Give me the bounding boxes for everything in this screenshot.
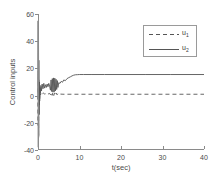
x-tick xyxy=(204,146,205,149)
y-tick xyxy=(35,150,38,151)
y-tick xyxy=(35,96,38,97)
y-tick-label: -40 xyxy=(24,147,34,154)
y-tick-label: 20 xyxy=(26,65,34,72)
legend: u1 u2 xyxy=(143,25,197,57)
legend-label-u2-sub: 2 xyxy=(186,47,189,53)
legend-entry-u1: u1 xyxy=(144,26,196,42)
x-tick-label: 10 xyxy=(76,154,84,161)
y-axis-label-wrapper: Control inputs xyxy=(11,14,12,150)
y-tick-label: -20 xyxy=(24,119,34,126)
x-tick-label: 30 xyxy=(159,154,167,161)
x-tick-label: 20 xyxy=(117,154,125,161)
y-axis-label: Control inputs xyxy=(9,59,17,105)
y-tick-label: 0 xyxy=(30,92,34,99)
y-tick-label: 40 xyxy=(26,38,34,45)
x-tick-label: 0 xyxy=(36,154,40,161)
legend-entry-u2: u2 xyxy=(144,41,196,57)
y-tick xyxy=(35,68,38,69)
legend-label-u1: u1 xyxy=(182,29,189,39)
legend-swatch-dashed xyxy=(149,34,179,35)
x-tick xyxy=(80,146,81,149)
x-axis-label: t(sec) xyxy=(38,164,204,172)
y-tick xyxy=(35,14,38,15)
x-axis-line xyxy=(38,149,204,150)
x-tick xyxy=(163,146,164,149)
y-tick-label: 60 xyxy=(26,11,34,18)
x-tick-label: 40 xyxy=(200,154,208,161)
y-axis-line xyxy=(38,14,39,150)
x-tick xyxy=(38,146,39,149)
figure-container: Control inputs -40-200204060 010203040 t… xyxy=(0,0,220,183)
y-tick xyxy=(35,123,38,124)
x-tick xyxy=(121,146,122,149)
y-tick xyxy=(35,41,38,42)
legend-swatch-solid xyxy=(149,49,179,50)
legend-label-u2: u2 xyxy=(182,44,189,54)
legend-label-u1-sub: 1 xyxy=(186,32,189,38)
